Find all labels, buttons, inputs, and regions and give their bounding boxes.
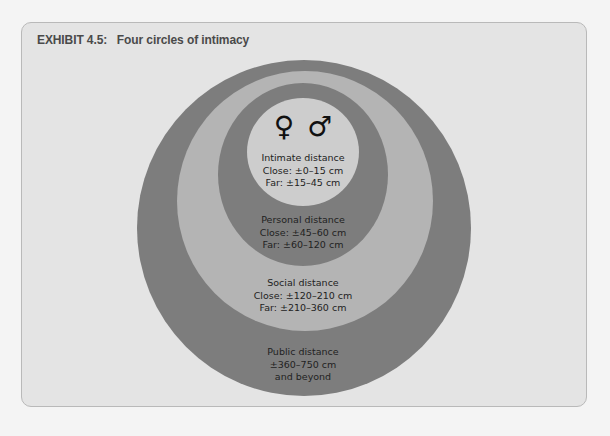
zone-name: Personal distance bbox=[223, 214, 383, 227]
zone-close-range: Close: ±45–60 cm bbox=[223, 227, 383, 240]
male-symbol-icon: ♂ bbox=[307, 112, 332, 142]
female-symbol-icon: ♀ bbox=[274, 112, 295, 142]
intimate-distance-label: Intimate distance Close: ±0–15 cm Far: ±… bbox=[223, 152, 383, 190]
public-distance-label: Public distance ±360–750 cm and beyond bbox=[223, 346, 383, 384]
zone-range-note: and beyond bbox=[223, 371, 383, 384]
gender-symbols: ♀ ♂ bbox=[274, 112, 333, 142]
zone-name: Intimate distance bbox=[223, 152, 383, 165]
zone-close-range: Close: ±120–210 cm bbox=[223, 290, 383, 303]
social-distance-label: Social distance Close: ±120–210 cm Far: … bbox=[223, 277, 383, 315]
exhibit-panel: EXHIBIT 4.5: Four circles of intimacy ♀ … bbox=[21, 22, 587, 407]
exhibit-title: EXHIBIT 4.5: Four circles of intimacy bbox=[37, 33, 249, 47]
zone-far-range: Far: ±15–45 cm bbox=[223, 177, 383, 190]
zone-far-range: Far: ±210–360 cm bbox=[223, 302, 383, 315]
zone-far-range: Far: ±60–120 cm bbox=[223, 239, 383, 252]
zone-close-range: Close: ±0–15 cm bbox=[223, 165, 383, 178]
personal-distance-label: Personal distance Close: ±45–60 cm Far: … bbox=[223, 214, 383, 252]
zone-range: ±360–750 cm bbox=[223, 359, 383, 372]
zone-name: Public distance bbox=[223, 346, 383, 359]
zone-name: Social distance bbox=[223, 277, 383, 290]
